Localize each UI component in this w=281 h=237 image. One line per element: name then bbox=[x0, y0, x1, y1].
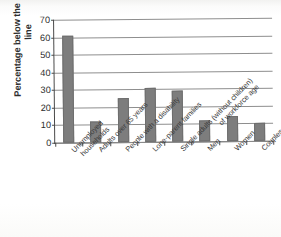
y-axis-tick-label: 60 bbox=[40, 32, 50, 42]
plot-area: 010203040506070 bbox=[53, 18, 273, 144]
y-axis-title: Percentage below the poverty line bbox=[10, 0, 37, 97]
y-axis-tick-label: 40 bbox=[40, 68, 50, 78]
y-axis-tick-label: 20 bbox=[41, 103, 51, 113]
chart-figure: Percentage below the poverty line 010203… bbox=[0, 0, 281, 237]
bar bbox=[254, 122, 265, 141]
y-axis-tick-label: 10 bbox=[41, 120, 51, 130]
y-axis-tick-label: 30 bbox=[40, 85, 50, 95]
x-axis-labels-group: UnemployedhouseholdsAdults over 65 years… bbox=[54, 145, 281, 237]
y-axis-tick-label: 70 bbox=[40, 15, 50, 25]
y-axis-tick-label: 0 bbox=[46, 138, 51, 148]
bars-group bbox=[54, 18, 273, 143]
y-axis-tick-label: 50 bbox=[40, 50, 50, 60]
bar-slot bbox=[54, 20, 82, 143]
bar bbox=[62, 35, 74, 142]
